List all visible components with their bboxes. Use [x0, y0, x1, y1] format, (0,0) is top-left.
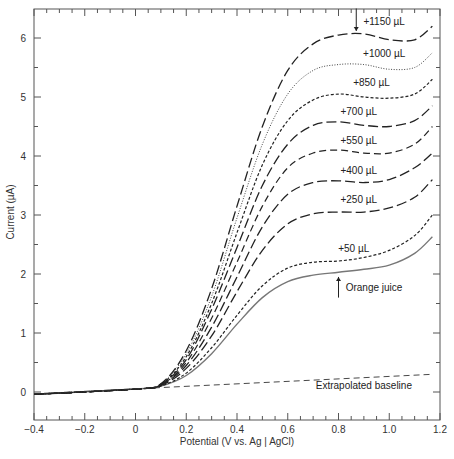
plot-border: [34, 9, 440, 420]
x-tick-label: 0: [133, 424, 139, 435]
series-line: [34, 237, 432, 395]
x-tick-label: 1.2: [433, 424, 447, 435]
y-axis-title: Current (µA): [5, 184, 16, 239]
curve-label: +1150 µL: [363, 16, 405, 27]
annotations: +1150 µL+1000 µL+850 µL+700 µL+550 µL+40…: [316, 16, 413, 391]
y-tick-label: 0: [20, 387, 26, 398]
curve-label: +700 µL: [340, 106, 377, 117]
arrowhead-icon: [336, 277, 341, 281]
x-axis-title: Potential (V vs. Ag | AgCl): [180, 436, 294, 447]
curve-label: +250 µL: [340, 194, 377, 205]
curve-label: +50 µL: [338, 243, 370, 254]
curve-label: +1000 µL: [363, 48, 406, 59]
curve-label: +400 µL: [340, 165, 377, 176]
voltammogram-chart: −0.4−0.200.20.40.60.81.01.20123456 +1150…: [0, 0, 454, 459]
series-line: [34, 53, 432, 395]
series-line: [34, 106, 432, 395]
x-tick-label: 0.6: [281, 424, 295, 435]
x-tick-label: −0.2: [75, 424, 95, 435]
curve-label: Orange juice: [346, 282, 403, 293]
axis-ticks: −0.4−0.200.20.40.60.81.01.20123456: [20, 9, 447, 435]
y-tick-label: 2: [20, 269, 26, 280]
y-tick-label: 4: [20, 151, 26, 162]
curve-label: +850 µL: [353, 77, 390, 88]
plot-frame: [34, 9, 440, 420]
y-tick-label: 1: [20, 328, 26, 339]
annotation-arrows: [336, 9, 359, 298]
x-tick-label: −0.4: [24, 424, 44, 435]
x-tick-label: 0.8: [332, 424, 346, 435]
y-tick-label: 5: [20, 92, 26, 103]
arrowhead-icon: [354, 27, 359, 31]
y-tick-label: 6: [20, 33, 26, 44]
x-tick-label: 0.4: [230, 424, 244, 435]
series-line: [34, 153, 432, 394]
curve-label: +550 µL: [340, 135, 377, 146]
series-line: [34, 215, 432, 394]
x-tick-label: 1.0: [382, 424, 396, 435]
curve-label: Extrapolated baseline: [316, 380, 413, 391]
y-tick-label: 3: [20, 210, 26, 221]
x-tick-label: 0.2: [179, 424, 193, 435]
